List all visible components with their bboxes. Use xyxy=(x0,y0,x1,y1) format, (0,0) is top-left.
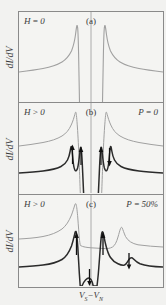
y-axis-label-panel-c: dI/dV xyxy=(2,195,16,288)
panel-a: H = 0 (a) xyxy=(18,11,164,103)
y-axis-label-text-b: dI/dV xyxy=(4,138,15,160)
panel-stack: H = 0 (a) xyxy=(18,11,164,288)
figure-container: dI/dV dI/dV dI/dV H = 0 (a) xyxy=(0,0,166,305)
y-axis-label-panel-a: dI/dV xyxy=(2,11,16,103)
panel-b-tag: (b) xyxy=(86,108,97,117)
panel-b-field-label: H > 0 xyxy=(24,108,45,117)
y-axis-label-panel-b: dI/dV xyxy=(2,103,16,195)
panel-c-field-label: H > 0 xyxy=(24,200,45,209)
panel-c-polarization-label: P = 50% xyxy=(126,200,158,209)
x-axis-label: VS−VN xyxy=(18,290,164,302)
x-axis-sub-n: N xyxy=(99,296,103,302)
y-axis-label-text-a: dI/dV xyxy=(4,46,15,68)
panel-c-tag: (c) xyxy=(86,200,96,209)
panel-b-polarization-label: P = 0 xyxy=(138,108,158,117)
y-axis-label-text-c: dI/dV xyxy=(4,230,15,252)
panel-c: H > 0 (c) P = 50% xyxy=(18,195,164,288)
panel-a-tag: (a) xyxy=(86,17,96,26)
panel-b: H > 0 (b) P = 0 xyxy=(18,103,164,195)
panel-a-field-label: H = 0 xyxy=(24,17,45,26)
